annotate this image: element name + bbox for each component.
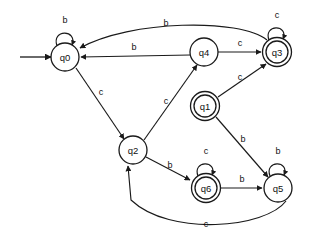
edge-label-q0-q0: b: [62, 15, 67, 25]
edge-label-q1-q5: b: [240, 134, 245, 144]
state-q2-label: q2: [128, 145, 139, 156]
state-q6[interactable]: q6: [192, 174, 221, 203]
edge-q0-q2-path: [76, 68, 124, 139]
edge-q4-q3: c: [218, 38, 261, 52]
edge-label-q4-q3: c: [238, 38, 243, 48]
state-q3[interactable]: q3: [263, 38, 292, 67]
edge-label-q5-q5: b: [275, 146, 280, 156]
state-q4-label: q4: [199, 47, 210, 58]
edge-label-q3-q3: c: [275, 10, 280, 20]
state-q5[interactable]: q5: [264, 174, 292, 202]
selfloop-q5: b: [269, 146, 285, 176]
edge-q2-q4: c: [144, 65, 197, 140]
state-q3-label: q3: [272, 47, 283, 58]
edge-label-q3-q0: b: [163, 18, 168, 28]
edge-label-q0-q2: c: [99, 87, 104, 97]
edge-label-q1-q3: c: [238, 72, 243, 82]
state-q5-label: q5: [273, 183, 284, 194]
edge-q1-q5: b: [216, 117, 268, 177]
edge-q2-q6: b: [146, 157, 190, 180]
edge-label-q2-q6: b: [167, 160, 172, 170]
edge-label-q4-q0: b: [131, 42, 136, 52]
state-q0-label: q0: [60, 52, 71, 63]
edge-q0-q2: c: [76, 68, 124, 139]
edge-label-q6-q6: c: [204, 146, 209, 156]
state-q6-label: q6: [201, 183, 212, 194]
edge-label-q5-q2: c: [204, 219, 209, 229]
edge-q1-q3: c: [218, 64, 266, 97]
state-q0[interactable]: q0: [51, 43, 79, 71]
state-q4[interactable]: q4: [190, 38, 218, 66]
edge-q4-q0-path: [81, 55, 190, 57]
automaton-canvas: b b c c c c b: [0, 0, 312, 243]
selfloop-q3: c: [268, 10, 284, 40]
state-q2[interactable]: q2: [119, 136, 147, 164]
edge-label-q2-q4: c: [164, 96, 169, 106]
edge-q4-q0: b: [81, 42, 190, 57]
edge-q2-q4-path: [144, 65, 197, 140]
edge-q6-q5: b: [221, 174, 262, 188]
state-q1-label: q1: [200, 101, 211, 112]
selfloop-q6: c: [197, 146, 213, 176]
selfloop-q0: b: [56, 15, 73, 46]
state-q1[interactable]: q1: [191, 92, 220, 121]
automaton-diagram: b b c c c c b: [0, 0, 312, 243]
edge-q1-q5-path: [216, 117, 268, 177]
edge-label-q6-q5: b: [239, 174, 244, 184]
